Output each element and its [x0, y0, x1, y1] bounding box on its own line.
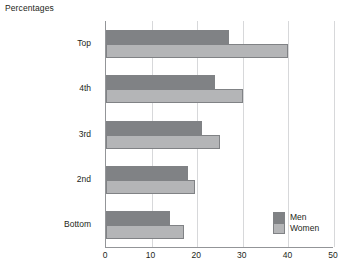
legend-item-women: Women [273, 223, 319, 234]
bar-group-top [106, 30, 333, 58]
legend-item-men: Men [273, 212, 319, 223]
bar-group-4th [106, 75, 333, 103]
bar-group-3rd [106, 121, 333, 149]
bar-bottom-men [106, 211, 170, 225]
y-axis-label-bottom: Bottom [64, 219, 91, 229]
x-axis-label-30: 30 [237, 250, 246, 260]
bar-3rd-men [106, 121, 202, 135]
y-axis-labels: Top4th3rd2ndBottom [0, 21, 100, 248]
legend-swatch-men-icon [273, 212, 285, 223]
bar-top-men [106, 30, 229, 44]
bar-2nd-men [106, 166, 188, 180]
bar-3rd-women [106, 135, 220, 149]
x-axis-label-50: 50 [328, 250, 337, 260]
x-axis-label-20: 20 [191, 250, 200, 260]
x-axis-label-40: 40 [283, 250, 292, 260]
bar-2nd-women [106, 180, 195, 194]
x-axis-label-10: 10 [146, 250, 155, 260]
bar-group-2nd [106, 166, 333, 194]
legend-label-men: Men [290, 212, 307, 223]
bar-bottom-women [106, 225, 184, 239]
x-axis-labels: 01020304050 [105, 250, 333, 266]
x-axis-label-0: 0 [103, 250, 108, 260]
bar-4th-men [106, 75, 215, 89]
y-axis-label-3rd: 3rd [79, 129, 91, 139]
y-axis-label-2nd: 2nd [77, 174, 91, 184]
legend-swatch-women-icon [273, 223, 285, 234]
y-axis-label-top: Top [77, 38, 91, 48]
bar-top-women [106, 44, 288, 58]
chart-title: Percentages [5, 3, 54, 13]
chart-legend: MenWomen [273, 212, 319, 234]
y-axis-label-4th: 4th [79, 83, 91, 93]
bar-4th-women [106, 89, 243, 103]
legend-label-women: Women [290, 223, 319, 234]
gridline-50 [334, 21, 335, 247]
